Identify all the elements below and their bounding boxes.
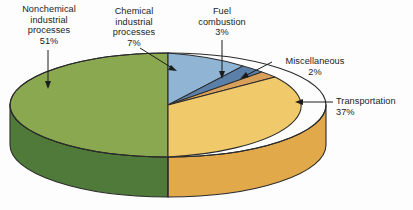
slice-label-miscellaneous-line1: Miscellaneous [266,56,364,67]
slice-label-fuel-combustion-line2: combustion [184,17,260,28]
leader-line-nonchemical [45,50,51,89]
slice-label-transportation-percent: 37% [336,107,412,118]
slice-label-nonchemical-percent: 51% [3,36,95,47]
pie-chart-figure: Nonchemical industrial processes 51% Che… [0,0,413,210]
slice-label-nonchemical: Nonchemical industrial processes 51% [3,4,95,46]
slice-label-nonchemical-line2: industrial [3,15,95,26]
slice-label-miscellaneous-percent: 2% [266,67,364,78]
slice-label-transportation-line1: Transportation [336,96,412,107]
leader-line-transportation [295,99,333,105]
slice-label-chemical-percent: 7% [92,38,176,49]
slice-label-miscellaneous: Miscellaneous 2% [266,56,364,77]
slice-label-fuel-combustion-line1: Fuel [184,6,260,17]
slice-label-chemical-line2: industrial [92,17,176,28]
slice-label-chemical-line3: processes [92,27,176,38]
slice-label-chemical: Chemical industrial processes 7% [92,6,176,48]
slice-label-fuel-combustion: Fuel combustion 3% [184,6,260,38]
slice-label-fuel-combustion-percent: 3% [184,27,260,38]
slice-label-nonchemical-line3: processes [3,25,95,36]
slice-label-transportation: Transportation 37% [336,96,412,117]
slice-label-nonchemical-line1: Nonchemical [3,4,95,15]
slice-label-chemical-line1: Chemical [92,6,176,17]
